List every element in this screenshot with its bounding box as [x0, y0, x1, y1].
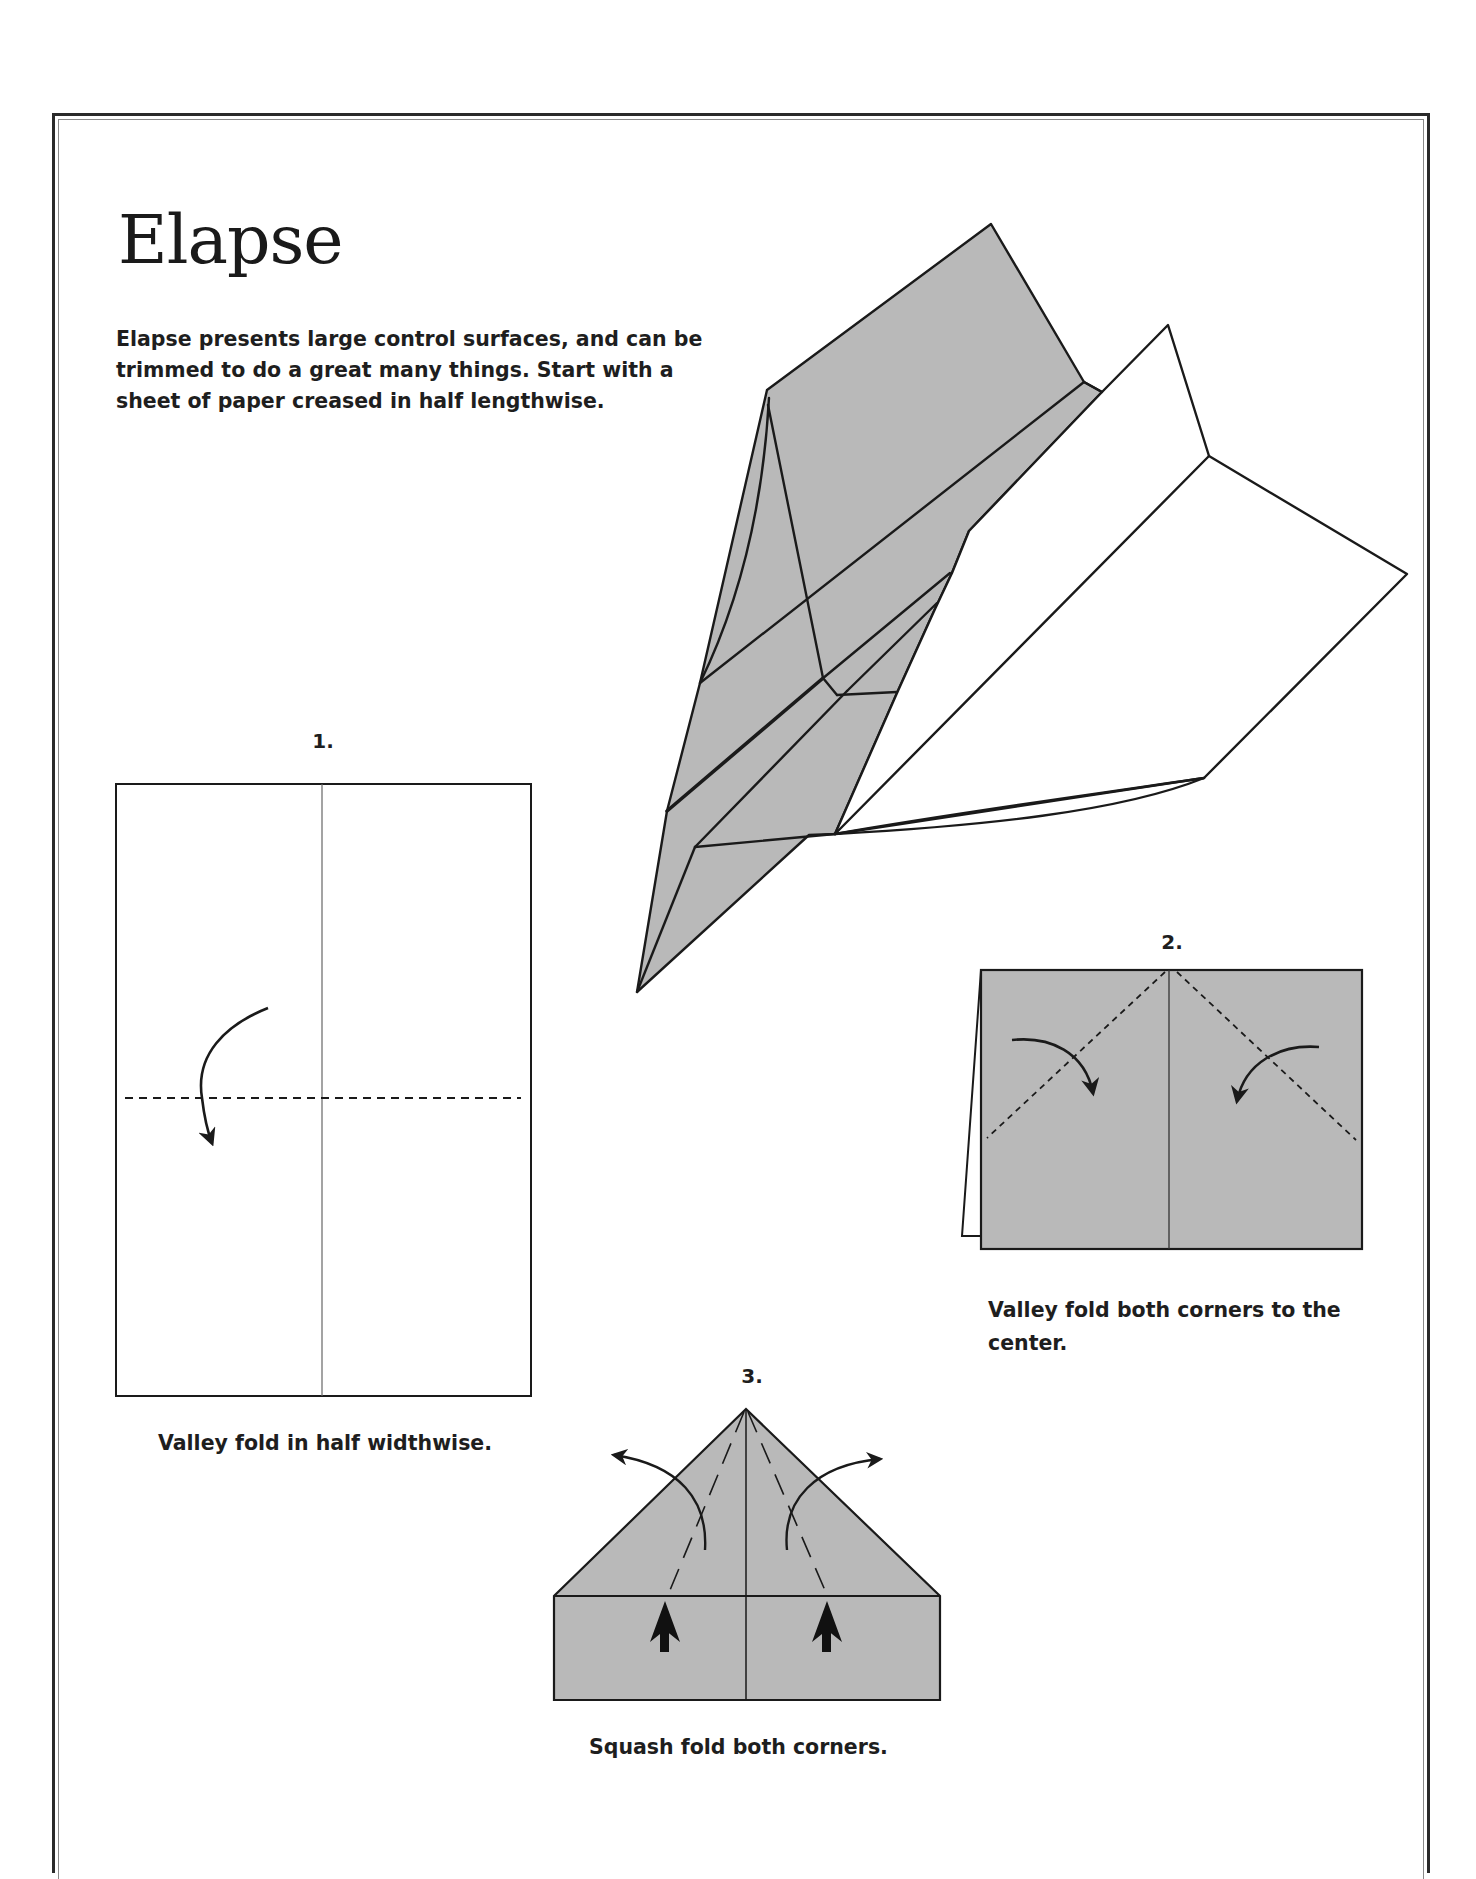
step2-number: 2.	[1161, 930, 1183, 954]
step1-diagram	[116, 784, 531, 1396]
step1-caption: Valley fold in half widthwise.	[158, 1427, 492, 1460]
step1-number: 1.	[312, 729, 334, 753]
step3-diagram	[554, 1409, 940, 1700]
step3-number: 3.	[741, 1364, 763, 1388]
step2-caption-line2: center.	[988, 1327, 1067, 1360]
finished-plane-illustration	[637, 224, 1407, 992]
step3-caption: Squash fold both corners.	[589, 1731, 888, 1764]
step2-caption-line1: Valley fold both corners to the	[988, 1294, 1341, 1327]
step2-diagram	[962, 970, 1362, 1249]
back-flap	[962, 970, 981, 1236]
